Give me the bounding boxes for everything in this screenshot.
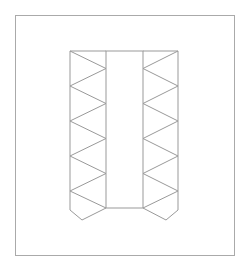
net-diagram — [0, 0, 246, 269]
zigzag-line — [143, 51, 178, 208]
center-rect — [106, 51, 143, 208]
center-rectangle — [106, 51, 143, 208]
zigzag-line — [70, 51, 106, 208]
left-triangle-column — [70, 51, 106, 220]
right-triangle-column — [143, 51, 178, 220]
